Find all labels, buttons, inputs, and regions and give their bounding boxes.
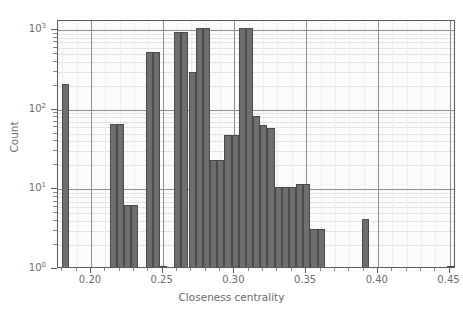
x-tick-minor <box>205 268 206 271</box>
y-tick-minor <box>53 212 57 213</box>
y-tick-label-exponent: 0 <box>42 261 46 269</box>
x-tick-label: 0.35 <box>283 274 327 285</box>
y-tick-minor <box>53 220 57 221</box>
x-axis-title: Closeness centrality <box>0 291 463 303</box>
histogram-bar <box>160 266 167 267</box>
x-tick-minor <box>262 268 263 271</box>
y-tick-minor <box>53 230 57 231</box>
y-tick-minor <box>53 85 57 86</box>
y-tick-minor <box>53 41 57 42</box>
x-tick-major <box>162 268 163 273</box>
x-tick-major <box>305 268 306 273</box>
x-tick-minor <box>276 268 277 271</box>
x-tick-major <box>90 268 91 273</box>
y-tick-minor <box>53 192 57 193</box>
y-tick-minor <box>53 116 57 117</box>
y-tick-minor <box>53 140 57 141</box>
y-tick-label-exponent: 3 <box>42 22 46 30</box>
x-tick-minor <box>190 268 191 271</box>
x-tick-label: 0.25 <box>140 274 184 285</box>
gridline-minor-vertical <box>335 21 336 267</box>
x-tick-minor <box>147 268 148 271</box>
y-tick-minor <box>53 61 57 62</box>
histogram-bar <box>282 187 289 267</box>
y-tick-minor <box>53 150 57 151</box>
x-tick-minor <box>391 268 392 271</box>
y-tick-label-mantissa: 10 <box>29 183 42 194</box>
x-tick-minor <box>248 268 249 271</box>
histogram-bar <box>224 135 231 267</box>
x-tick-minor <box>76 268 77 271</box>
y-tick-label: 100 <box>0 261 46 273</box>
x-tick-minor <box>406 268 407 271</box>
gridline-major-vertical <box>91 21 92 267</box>
histogram-bar <box>267 128 274 267</box>
x-tick-minor <box>320 268 321 271</box>
histogram-bar <box>110 124 117 267</box>
histogram-bar <box>131 205 138 267</box>
y-tick-minor <box>53 112 57 113</box>
gridline-minor-vertical <box>421 21 422 267</box>
gridline-minor-vertical <box>349 21 350 267</box>
x-tick-minor <box>119 268 120 271</box>
x-tick-major <box>233 268 234 273</box>
y-axis-title: Count <box>8 77 20 197</box>
y-tick-minor <box>53 244 57 245</box>
histogram-bar <box>362 219 369 267</box>
plot-area <box>57 20 455 268</box>
y-tick-minor <box>53 206 57 207</box>
y-tick-minor <box>53 37 57 38</box>
histogram-bar <box>146 52 153 267</box>
histogram-bar <box>181 32 188 267</box>
x-tick-minor <box>104 268 105 271</box>
x-tick-minor <box>363 268 364 271</box>
gridline-major-vertical <box>163 21 164 267</box>
histogram-bar <box>289 187 296 267</box>
histogram-bar <box>203 28 210 267</box>
x-tick-label: 0.30 <box>211 274 255 285</box>
gridline-minor-vertical <box>392 21 393 267</box>
x-tick-minor <box>61 268 62 271</box>
gridline-minor-vertical <box>407 21 408 267</box>
y-tick-label: 101 <box>0 181 46 193</box>
y-tick-minor <box>53 121 57 122</box>
y-tick-major <box>51 268 57 269</box>
gridline-major-horizontal <box>58 30 454 31</box>
histogram-bar <box>210 160 217 267</box>
histogram-bar <box>447 266 454 267</box>
y-tick-minor <box>53 133 57 134</box>
y-tick-minor <box>53 53 57 54</box>
gridline-minor-horizontal <box>58 48 454 49</box>
y-tick-minor <box>53 196 57 197</box>
y-tick-major <box>51 188 57 189</box>
y-tick-label-exponent: 1 <box>42 181 46 189</box>
gridline-major-horizontal <box>58 110 454 111</box>
x-tick-minor <box>219 268 220 271</box>
x-tick-major <box>377 268 378 273</box>
histogram-bar <box>217 160 224 267</box>
x-tick-major <box>449 268 450 273</box>
gridline-major-vertical <box>450 21 451 267</box>
x-tick-minor <box>434 268 435 271</box>
histogram-figure: 103102101100 0.200.250.300.350.400.45 Co… <box>0 0 463 312</box>
gridline-minor-horizontal <box>58 86 454 87</box>
histogram-bar <box>62 84 69 267</box>
gridline-minor-horizontal <box>58 34 454 35</box>
x-tick-minor <box>420 268 421 271</box>
y-tick-label: 102 <box>0 102 46 114</box>
histogram-bar <box>318 229 325 267</box>
x-tick-minor <box>291 268 292 271</box>
x-tick-minor <box>334 268 335 271</box>
y-tick-minor <box>53 164 57 165</box>
gridline-minor-horizontal <box>58 62 454 63</box>
y-tick-major <box>51 109 57 110</box>
x-tick-minor <box>133 268 134 271</box>
x-tick-label: 0.45 <box>427 274 463 285</box>
x-tick-label: 0.20 <box>68 274 112 285</box>
gridline-minor-horizontal <box>58 38 454 39</box>
y-tick-label-exponent: 2 <box>42 102 46 110</box>
x-tick-minor <box>176 268 177 271</box>
gridline-minor-vertical <box>105 21 106 267</box>
histogram-bar <box>239 28 246 267</box>
histogram-bar <box>232 135 239 267</box>
